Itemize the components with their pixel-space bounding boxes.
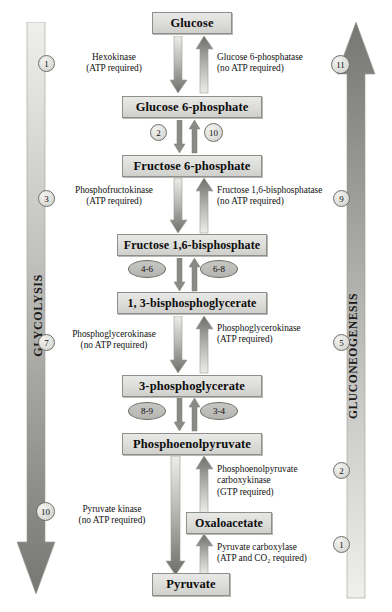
step-marker-2[interactable]: 2 <box>150 124 167 141</box>
gluconeogenesis-arrow <box>337 22 381 600</box>
metabolite-box-oxaloacetate[interactable]: Oxaloacetate <box>186 512 272 534</box>
metabolite-box-1-3-bisphosphoglycerate[interactable]: 1, 3-bisphosphoglycerate <box>117 292 267 314</box>
step-marker-6-8[interactable]: 6-8 <box>200 260 238 278</box>
enzyme-label-phosphoglycerokinase-forward: Phosphoglycerokinase (no ATP required) <box>56 329 172 352</box>
enzyme-line: Glucose 6-phosphatase <box>217 52 357 63</box>
enzyme-line: carboxykinase <box>217 475 347 486</box>
enzyme-line: Pyruvate kinase <box>56 504 168 515</box>
step-marker-4-6[interactable]: 4-6 <box>128 260 166 278</box>
enzyme-line: (GTP required) <box>217 487 347 498</box>
metabolite-box-fructose-6-phosphate[interactable]: Fructose 6-phosphate <box>122 155 262 177</box>
arrow-g6p-to-f6p <box>174 120 186 154</box>
enzyme-line: (no ATP required) <box>56 515 168 526</box>
arrow-fbp-to-f6p <box>196 178 214 234</box>
arrow-3pg-to-pep <box>174 398 186 432</box>
step-marker-10[interactable]: 10 <box>204 123 223 142</box>
metabolite-box-glucose[interactable]: Glucose <box>152 12 232 34</box>
enzyme-label-pep-carboxykinase: Phosphoenolpyruvate carboxykinase (GTP r… <box>217 464 347 498</box>
arrow-f6p-to-g6p <box>189 120 201 154</box>
glycolysis-step-10[interactable]: 10 <box>36 502 55 521</box>
metabolite-box-glucose-6-phosphate[interactable]: Glucose 6-phosphate <box>122 96 262 118</box>
arrow-3pg-to-bpg <box>196 316 214 374</box>
gluconeogenesis-label: GLUCONEOGENESIS <box>347 276 359 436</box>
diagram-canvas: GLYCOLYSIS GLUCONEOGENESIS 1 3 7 10 11 9… <box>0 0 392 612</box>
metabolite-box-pyruvate[interactable]: Pyruvate <box>152 573 230 596</box>
arrow-glucose-to-g6p <box>170 36 188 94</box>
enzyme-label-pyruvate-kinase: Pyruvate kinase (no ATP required) <box>56 504 168 527</box>
enzyme-label-pyruvate-carboxylase: Pyruvate carboxylase (ATP and CO₂ requir… <box>217 542 351 565</box>
arrow-oaa-to-pep <box>196 456 214 514</box>
arrow-bpg-to-fbp <box>189 258 201 292</box>
enzyme-line: Fructose 1,6-bisphosphatase <box>217 185 359 196</box>
enzyme-line: Phosphoglycerokinase <box>217 323 341 334</box>
enzyme-line: Hexokinase <box>62 52 166 63</box>
arrow-bpg-to-3pg <box>170 316 188 374</box>
arrow-g6p-to-glucose <box>196 36 214 94</box>
metabolite-box-fructose-1-6-bisphosphate[interactable]: Fructose 1,6-bisphosphate <box>117 234 267 256</box>
enzyme-line: (ATP required) <box>58 196 170 207</box>
enzyme-label-phosphoglycerokinase-reverse: Phosphoglycerokinase (ATP required) <box>217 323 341 346</box>
arrow-pep-to-3pg <box>189 398 201 432</box>
enzyme-label-phosphofructokinase: Phosphofructokinase (ATP required) <box>58 185 170 208</box>
enzyme-line: (no ATP required) <box>217 196 359 207</box>
enzyme-line: (no ATP required) <box>56 340 172 351</box>
enzyme-line: Phosphoenolpyruvate <box>217 464 347 475</box>
enzyme-line: (ATP required) <box>62 63 166 74</box>
enzyme-label-glucose-6-phosphatase: Glucose 6-phosphatase (no ATP required) <box>217 52 357 75</box>
metabolite-box-3-phosphoglycerate[interactable]: 3-phosphoglycerate <box>122 375 262 397</box>
arrow-f6p-to-fbp <box>170 178 188 234</box>
enzyme-label-hexokinase: Hexokinase (ATP required) <box>62 52 166 75</box>
glycolysis-step-3[interactable]: 3 <box>38 190 55 207</box>
step-marker-3-4[interactable]: 3-4 <box>200 402 238 420</box>
glycolysis-step-1[interactable]: 1 <box>38 55 55 72</box>
enzyme-line: (ATP required) <box>217 334 341 345</box>
glycolysis-step-7[interactable]: 7 <box>38 334 55 351</box>
enzyme-line: (ATP and CO₂ required) <box>217 553 351 564</box>
metabolite-box-phosphoenolpyruvate[interactable]: Phosphoenolpyruvate <box>122 433 262 455</box>
enzyme-line: Pyruvate carboxylase <box>217 542 351 553</box>
arrow-pyruvate-to-oaa <box>196 534 214 576</box>
arrow-pep-to-pyruvate <box>166 456 186 576</box>
enzyme-line: Phosphofructokinase <box>58 185 170 196</box>
enzyme-line: Phosphoglycerokinase <box>56 329 172 340</box>
enzyme-line: (no ATP required) <box>217 63 357 74</box>
step-marker-8-9[interactable]: 8-9 <box>128 402 166 420</box>
enzyme-label-fructose-1-6-bisphosphatase: Fructose 1,6-bisphosphatase (no ATP requ… <box>217 185 359 208</box>
arrow-fbp-to-bpg <box>174 258 186 292</box>
